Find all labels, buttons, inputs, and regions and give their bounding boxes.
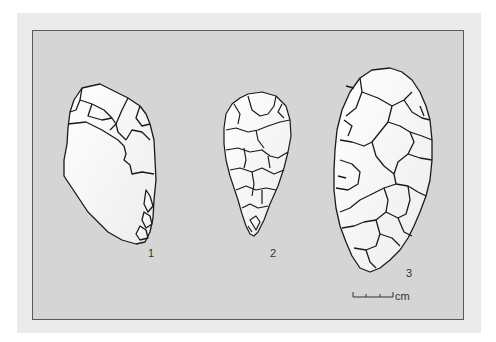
scale-unit-label: cm [395,290,410,302]
artifact-3-label: 3 [406,267,412,279]
artifact-2-label: 2 [270,247,276,259]
artifact-1-label: 1 [148,247,154,259]
scale-bar [353,292,393,297]
artifact-1 [64,84,156,244]
artifact-drawings: 1 2 [0,0,496,342]
artifact-3 [334,68,432,272]
artifact-2 [224,92,291,236]
